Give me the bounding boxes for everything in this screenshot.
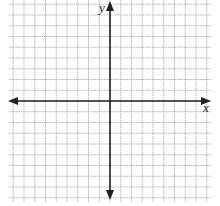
y-axis-bottom-arrow-icon <box>106 190 114 200</box>
y-axis-label: y <box>99 1 105 14</box>
coordinate-grid <box>0 0 220 206</box>
coordinate-plane: y x <box>0 0 220 206</box>
x-axis-label: x <box>203 101 209 114</box>
y-axis-top-arrow-icon <box>106 1 114 11</box>
